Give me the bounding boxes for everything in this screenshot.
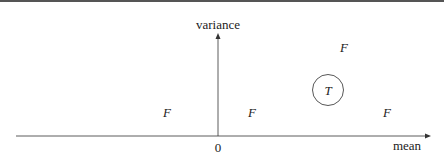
x-axis-arrow-icon bbox=[425, 134, 431, 139]
x-axis-label: mean bbox=[393, 138, 422, 153]
origin-label: 0 bbox=[215, 140, 222, 155]
point-f-2: F bbox=[247, 105, 257, 120]
point-f-1: F bbox=[162, 105, 172, 120]
y-axis-arrow-icon bbox=[216, 33, 221, 39]
point-f-3: F bbox=[339, 40, 349, 55]
point-t: T bbox=[324, 83, 332, 98]
point-f-4: F bbox=[382, 105, 392, 120]
y-axis-label: variance bbox=[196, 17, 240, 32]
diagram-svg: variance mean 0 F F F T F bbox=[0, 0, 444, 166]
mean-variance-diagram: variance mean 0 F F F T F bbox=[0, 0, 444, 166]
